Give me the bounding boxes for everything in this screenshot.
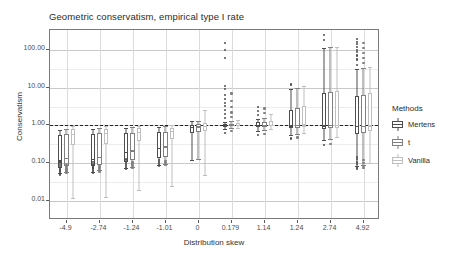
whisker-cap — [157, 127, 162, 128]
legend-items: MertenstVanilla — [392, 118, 435, 167]
whisker-cap — [58, 130, 63, 131]
legend-label: t — [408, 138, 410, 147]
whisker-cap — [190, 160, 195, 161]
legend-item-vanilla[interactable]: Vanilla — [392, 154, 435, 167]
whisker-cap — [196, 159, 201, 160]
legend-item-mertens[interactable]: Mertens — [392, 118, 435, 131]
median-line — [262, 125, 267, 126]
box — [64, 134, 69, 166]
whisker-cap — [203, 175, 208, 176]
median-line — [130, 150, 135, 151]
median-line — [302, 124, 307, 125]
boxplot — [236, 120, 241, 128]
outlier-point — [65, 167, 67, 169]
outlier-point — [92, 166, 94, 168]
outlier-point — [362, 57, 364, 59]
outlier-point — [131, 161, 133, 163]
median-line — [124, 152, 129, 153]
outlier-point — [230, 100, 232, 102]
whisker-cap — [64, 129, 69, 130]
whisker-cap — [302, 86, 307, 87]
boxplot — [190, 121, 195, 160]
outlier-point — [224, 109, 226, 111]
boxplot — [295, 88, 300, 135]
outlier-point — [92, 172, 94, 174]
outlier-point — [362, 42, 364, 44]
boxplot — [269, 114, 274, 129]
whisker-cap — [91, 129, 96, 130]
outlier-point — [92, 163, 94, 165]
whisker-cap — [322, 48, 327, 49]
y-tick-label: 10.00 — [27, 82, 45, 89]
median-line — [137, 132, 142, 133]
x-gridline — [166, 30, 167, 218]
legend-key-boxplot-icon — [392, 136, 403, 149]
boxplot — [361, 68, 366, 165]
whisker-cap — [322, 140, 327, 141]
legend-label: Mertens — [408, 120, 435, 129]
outlier-point — [257, 134, 259, 136]
outlier-point — [224, 88, 226, 90]
boxplot — [203, 110, 208, 175]
whisker-cap — [328, 139, 333, 140]
boxplot — [196, 121, 201, 160]
whisker-cap — [196, 121, 201, 122]
outlier-point — [356, 46, 358, 48]
legend-key-boxplot-icon — [392, 118, 403, 131]
box — [355, 96, 360, 134]
outlier-point — [356, 51, 358, 53]
legend-item-t[interactable]: t — [392, 136, 435, 149]
whisker-cap — [163, 126, 168, 127]
outlier-point — [356, 64, 358, 66]
box — [190, 125, 195, 134]
whisker-cap — [229, 128, 234, 129]
whisker-cap — [328, 47, 333, 48]
whisker-cap — [104, 126, 109, 127]
y-tick-label: 100.00 — [24, 44, 45, 51]
outlier-point — [356, 38, 358, 40]
x-gridline — [67, 30, 68, 218]
whisker-cap — [361, 68, 366, 69]
y-tick-label: 0.01 — [31, 195, 45, 202]
outlier-point — [224, 57, 226, 59]
boxplot — [229, 121, 234, 128]
box — [137, 128, 142, 141]
median-line — [269, 125, 274, 126]
median-line — [97, 157, 102, 158]
outlier-point — [224, 117, 226, 119]
legend-title: Methods — [392, 104, 435, 113]
whisker-cap — [203, 110, 208, 111]
outlier-point — [230, 111, 232, 113]
outlier-point — [356, 58, 358, 60]
whisker-cap — [289, 89, 294, 90]
boxplot — [71, 126, 76, 198]
outlier-point — [158, 165, 160, 167]
outlier-point — [323, 34, 325, 36]
boxplot — [104, 126, 109, 197]
whisker-cap — [256, 131, 261, 132]
box — [71, 129, 76, 145]
whisker-cap — [368, 67, 373, 68]
whisker-cap — [236, 128, 241, 129]
whisker-cap — [355, 69, 360, 70]
chart-root: Geometric conservatism, empirical type I… — [0, 0, 456, 259]
outlier-point — [65, 165, 67, 167]
outlier-point — [224, 49, 226, 51]
whisker-cap — [223, 129, 228, 130]
median-line — [355, 126, 360, 127]
outlier-point — [98, 171, 100, 173]
whisker-cap — [229, 121, 234, 122]
outlier-point — [230, 116, 232, 118]
boxplot — [289, 89, 294, 135]
box — [130, 133, 135, 161]
whisker-cap — [97, 128, 102, 129]
outlier-point — [323, 39, 325, 41]
outlier-point — [362, 165, 364, 167]
median-line — [229, 125, 234, 126]
whisker-cap — [223, 122, 228, 123]
outlier-point — [356, 54, 358, 56]
whisker-cap — [71, 198, 76, 199]
outlier-point — [224, 102, 226, 104]
outlier-point — [290, 137, 292, 139]
chart-title: Geometric conservatism, empirical type I… — [49, 11, 244, 22]
